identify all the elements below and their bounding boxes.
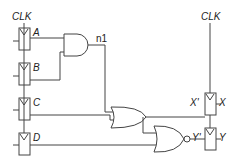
label-y-prime: Y' bbox=[192, 132, 202, 143]
nor-gate bbox=[154, 126, 184, 152]
label-c: C bbox=[33, 97, 41, 108]
and-gate bbox=[64, 34, 88, 56]
or-gate bbox=[111, 107, 146, 128]
flipflop-y: Y' Y bbox=[192, 128, 227, 150]
nor-bubble bbox=[184, 136, 190, 142]
label-x-prime: X' bbox=[189, 97, 200, 108]
flipflop-d: D bbox=[13, 132, 40, 155]
clk-label-right: CLK bbox=[201, 11, 222, 22]
label-a: A bbox=[32, 27, 40, 38]
flipflop-b: B bbox=[13, 62, 40, 85]
label-y: Y bbox=[219, 132, 227, 143]
flipflop-c: C bbox=[13, 97, 41, 120]
label-x: X bbox=[218, 97, 226, 108]
circuit-diagram: CLK A B C D n1 bbox=[0, 0, 239, 165]
n1-label: n1 bbox=[96, 33, 108, 44]
label-b: B bbox=[33, 62, 40, 73]
flipflop-x: X' X bbox=[189, 93, 226, 115]
clk-label-left: CLK bbox=[12, 11, 33, 22]
label-d: D bbox=[33, 132, 40, 143]
